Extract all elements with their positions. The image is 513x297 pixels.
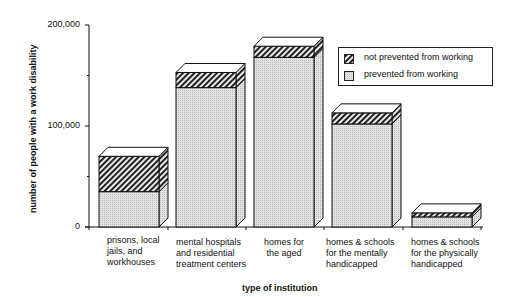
category-label-mental-hospitals: mental hospitals and residential treatme…	[176, 237, 246, 270]
bar-not-prevented	[99, 156, 159, 191]
legend-swatch-prevented	[344, 71, 354, 81]
category-label-prisons: prisons, local jails, and workhouses	[107, 235, 160, 268]
bar-group	[254, 37, 323, 227]
legend-label-not-prevented: not prevented from working	[364, 52, 473, 62]
bar-not-prevented	[412, 213, 472, 217]
legend: not prevented from working prevented fro…	[338, 47, 493, 86]
chart-root: 200,000 100,000 0 number of people with …	[0, 0, 513, 297]
category-label-mentally-handicapped: homes & schools for the mentally handica…	[326, 237, 395, 270]
bar-prevented	[332, 124, 392, 227]
y-tick-200000: 200,000	[30, 19, 80, 29]
x-axis-label: type of institution	[242, 283, 318, 293]
bar-prevented	[176, 88, 236, 227]
bar-not-prevented	[332, 113, 392, 124]
legend-label-prevented: prevented from working	[364, 69, 458, 79]
bar-group	[176, 63, 245, 227]
y-tick-0: 0	[30, 221, 80, 231]
legend-swatch-not-prevented	[344, 54, 354, 64]
bar-not-prevented	[254, 46, 314, 57]
bar-prevented	[412, 217, 472, 227]
bar-prevented	[99, 192, 159, 227]
bar-group	[412, 204, 481, 227]
category-label-homes-aged: homes for the aged	[264, 237, 304, 259]
bar-not-prevented	[176, 72, 236, 87]
bar-prevented	[254, 57, 314, 227]
bar-group	[99, 147, 168, 227]
category-label-physically-handicapped: homes & schools for the physically handi…	[411, 237, 480, 270]
bar-group	[332, 104, 401, 227]
y-axis-label: number of people with a work disability	[28, 44, 38, 213]
